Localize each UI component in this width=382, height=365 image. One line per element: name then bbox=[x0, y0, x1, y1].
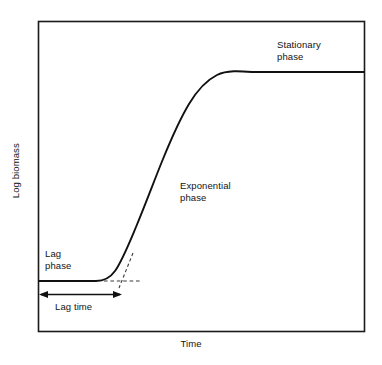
x-axis-label: Time bbox=[0, 338, 382, 350]
plot-frame bbox=[39, 22, 365, 332]
stationary-phase-label: Stationary phase bbox=[277, 39, 321, 62]
lag-phase-label: Lag phase bbox=[45, 248, 71, 271]
lag-time-label: Lag time bbox=[55, 301, 92, 313]
growth-curve-figure: Stationary phase Exponential phase Lag p… bbox=[0, 0, 382, 365]
y-axis-label: Log biomass bbox=[10, 131, 22, 211]
exponential-phase-label: Exponential phase bbox=[180, 180, 231, 203]
